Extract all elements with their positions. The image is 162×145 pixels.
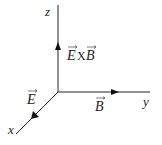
e-vector-label: E: [26, 90, 37, 108]
coordinate-diagram: z y x E X B E B: [0, 0, 162, 145]
exb-label-e: E: [66, 48, 76, 63]
z-axis-label: z: [44, 4, 50, 19]
y-axis-label: y: [141, 94, 149, 109]
exb-arrowhead-icon: [55, 42, 61, 50]
exb-label: E X B: [66, 46, 96, 64]
e-label-text: E: [26, 92, 36, 107]
exb-label-b: B: [86, 48, 95, 63]
x-axis: [16, 92, 58, 134]
exb-label-cross: X: [77, 49, 86, 63]
b-arrowhead-icon: [111, 89, 119, 95]
x-axis-label: x: [7, 122, 14, 137]
b-label-text: B: [95, 99, 104, 114]
b-vector-label: B: [95, 97, 105, 115]
